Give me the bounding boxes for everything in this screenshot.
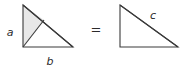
shaded-subtriangle [23,5,44,47]
label-leg-b: b [47,55,54,68]
label-hypotenuse-c: c [150,9,156,22]
equals-sign: = [91,22,102,37]
right-triangle-group: c [120,5,178,47]
geometry-figure: a b = c [0,0,187,68]
left-triangle-group: a b [7,5,73,68]
label-leg-a: a [7,26,14,39]
figure-canvas: a b = c [0,0,187,68]
